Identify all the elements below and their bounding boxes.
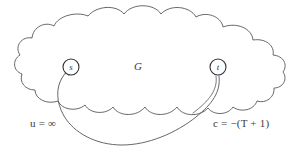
feedback-arc	[58, 68, 220, 146]
graph-region-label: G	[134, 60, 142, 72]
cost-label: c = −(T + 1)	[213, 117, 269, 129]
figure-container: s t G u = ∞ c = −(T + 1)	[0, 0, 294, 153]
diagram-canvas	[0, 0, 294, 153]
node-s-label: s	[64, 62, 78, 72]
cloud-region-outline	[15, 6, 286, 115]
capacity-label: u = ∞	[30, 117, 56, 129]
node-t-label: t	[211, 62, 225, 72]
